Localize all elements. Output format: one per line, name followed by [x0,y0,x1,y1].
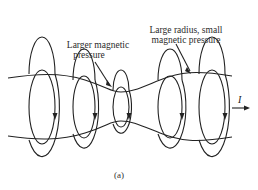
neck-annotation: Larger magnetic pressure [58,40,138,60]
neck-annotation-line1: Larger magnetic [58,40,138,50]
loop-4-down-arrow-icon [180,113,185,120]
arrowheads [53,67,251,120]
wide-annotation-line2: magnetic pressure [140,35,232,45]
loop-1-down-arrow-icon [53,113,58,120]
loop-5-down-arrow-icon [223,113,228,120]
current-symbol: I [238,94,241,105]
field-loop-outlines [29,70,225,144]
wide-annotation-line1: Large radius, small [140,25,232,35]
column-bottom-boundary [8,121,232,140]
loop-2-down-arrow-icon [93,113,98,120]
figure-caption: (a) [114,170,124,180]
current-arrowhead-icon [244,106,250,111]
column-top-boundary [8,73,232,92]
neck-annotation-line2: pressure [40,50,138,60]
neck-leader-arrow-icon [106,80,112,87]
wide-annotation: Large radius, small magnetic pressure [140,25,232,45]
